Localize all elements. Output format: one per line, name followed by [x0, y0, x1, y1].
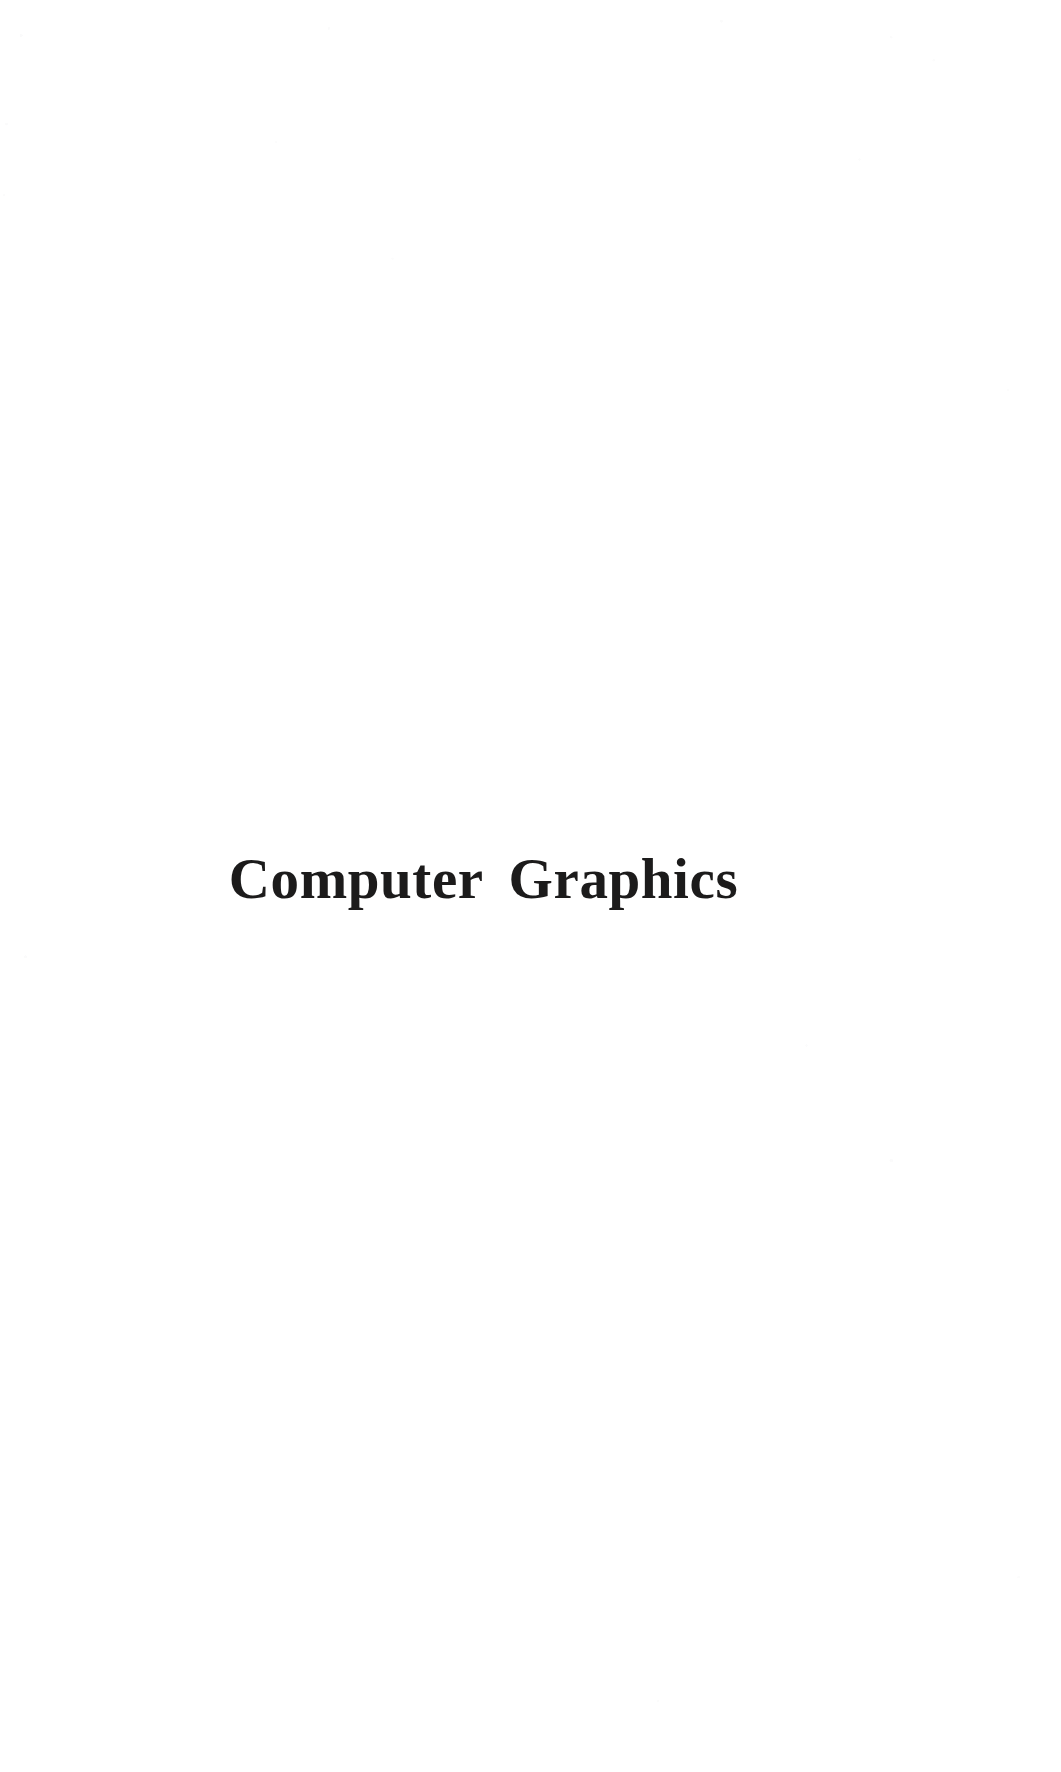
page-title-block: Computer Graphics — [0, 846, 1061, 912]
document-page: Computer Graphics — [0, 0, 1061, 1772]
page-title: Computer Graphics — [229, 846, 738, 912]
